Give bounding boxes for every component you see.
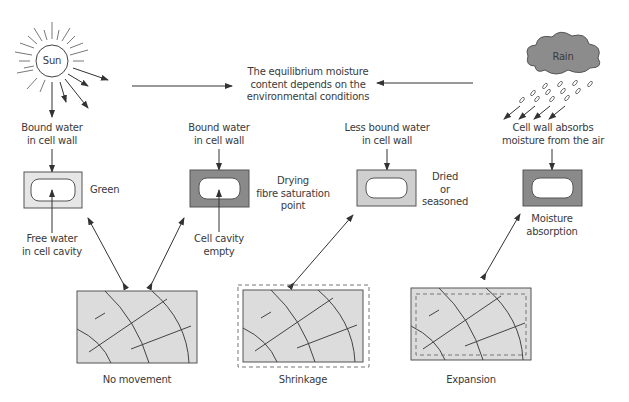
stage4-top-label: Cell wall absorbs moisture from the air [497, 122, 609, 147]
rain-arrows [504, 106, 565, 119]
wood1-label: No movement [87, 374, 187, 387]
cell-green [24, 149, 82, 233]
stage1-side-label: Green [90, 184, 130, 197]
sun-icon [15, 22, 108, 117]
cell-absorption [523, 149, 582, 206]
stage2-top-label: Bound water in cell wall [174, 122, 264, 147]
stage3-side-label: Dried or seasoned [420, 171, 470, 209]
wood-expansion [411, 288, 531, 360]
connector-arrows [88, 214, 520, 283]
stage1-top-label: Bound water in cell wall [7, 122, 97, 147]
stage3-top-label: Less bound water in cell wall [337, 122, 437, 147]
raindrops-icon [519, 80, 593, 104]
rain-label: Rain [548, 51, 578, 64]
wood-no-movement [77, 291, 197, 363]
stage4-side-label: Moisture absorption [517, 213, 587, 238]
stage2-bottom-label: Cell cavity empty [184, 233, 254, 258]
stage1-bottom-label: Free water in cell cavity [7, 233, 97, 258]
sun-label: Sun [38, 55, 66, 68]
wood2-label: Shrinkage [253, 374, 353, 387]
wood3-label: Expansion [421, 374, 521, 387]
stage2-side-label: Drying fibre saturation point [253, 175, 333, 213]
cell-dried [357, 149, 416, 206]
cell-fsp [190, 149, 249, 232]
wood-shrinkage [238, 285, 369, 367]
center-text: The equilibrium moisture content depends… [236, 66, 380, 104]
